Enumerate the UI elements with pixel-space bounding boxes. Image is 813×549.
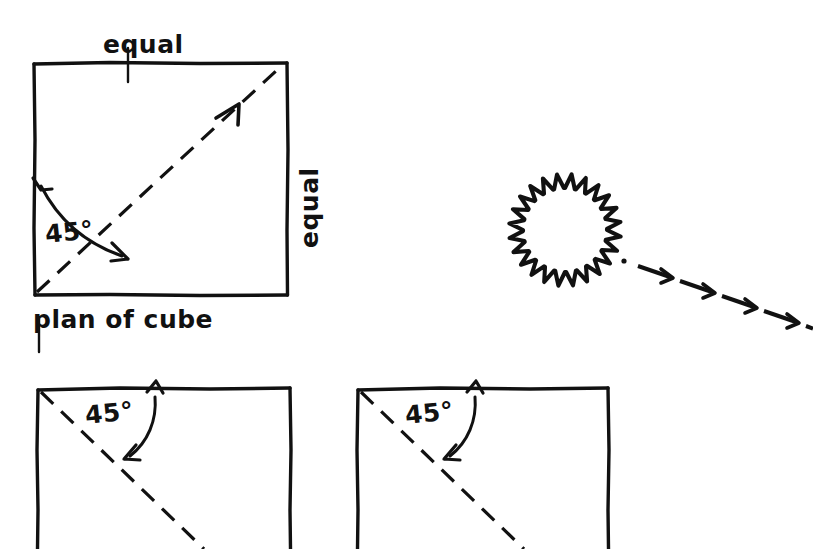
hand-drawn-diagram: 45° equal equal plan of cube <box>0 0 813 549</box>
square-top-edge <box>34 63 287 65</box>
square-top-edge <box>358 388 608 390</box>
square-left-edge <box>357 390 358 549</box>
angle-label-main: 45° <box>44 215 96 249</box>
equal-label-right: equal <box>295 167 324 248</box>
ray-arrow-segment <box>806 326 813 329</box>
angle-label-bottom-left: 45° <box>84 396 136 430</box>
plan-of-cube-square: 45° equal equal plan of cube <box>33 30 324 352</box>
plan-caption: plan of cube <box>33 305 213 334</box>
square-right-edge <box>287 63 288 295</box>
square-top-edge <box>38 388 290 390</box>
diagram-canvas: 45° equal equal plan of cube <box>0 0 813 549</box>
square-right-edge <box>608 388 609 549</box>
elevation-square-left: 45° <box>37 381 291 549</box>
sun-rays-overlay <box>430 143 618 303</box>
square-left-edge <box>37 390 38 549</box>
ray-origin-dot <box>621 258 626 263</box>
equal-label-top: equal <box>103 30 184 59</box>
angle-label-bottom-right: 45° <box>404 396 456 430</box>
sun-ray-arrows <box>621 258 813 328</box>
sun-icon <box>509 174 620 285</box>
square-bottom-edge <box>35 295 288 296</box>
square-right-edge <box>290 388 291 549</box>
elevation-square-right: 45° <box>357 381 609 549</box>
sun-zigzag-ring <box>509 174 620 285</box>
